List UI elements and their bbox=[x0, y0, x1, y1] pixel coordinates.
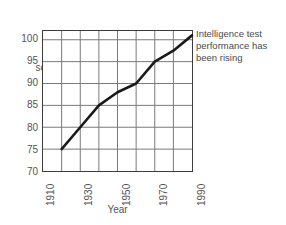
x-axis-tick-label: 1950 bbox=[122, 184, 132, 206]
y-axis-tick-label: 100 bbox=[0, 34, 38, 44]
y-axis-tick-label: 85 bbox=[0, 100, 38, 110]
y-axis-tick-label: 70 bbox=[0, 167, 38, 177]
plot-area bbox=[42, 30, 193, 172]
series-line-iq-score bbox=[62, 35, 192, 149]
y-axis-tick-label: 90 bbox=[0, 78, 38, 88]
x-axis-tick-label: 1930 bbox=[84, 184, 94, 206]
annotation-line-1: Intelligence test bbox=[196, 28, 286, 40]
y-axis-tick-label: 80 bbox=[0, 123, 38, 133]
x-axis-tick-label: 1990 bbox=[197, 184, 207, 206]
chart-annotation: Intelligence test performance has been r… bbox=[196, 28, 286, 64]
y-axis-tick-label: 75 bbox=[0, 145, 38, 155]
x-axis-title: Year bbox=[42, 204, 193, 215]
y-axis-tick-labels: 707580859095100 bbox=[0, 30, 38, 172]
annotation-line-2: performance has bbox=[196, 40, 286, 52]
x-axis-tick-label: 1910 bbox=[46, 184, 56, 206]
data-series-line bbox=[43, 31, 192, 171]
iq-line-chart: IQ score 707580859095100 191019301950197… bbox=[0, 0, 286, 225]
x-axis-tick-labels: 19101930195019701990 bbox=[42, 174, 193, 208]
annotation-line-3: been rising bbox=[196, 52, 286, 64]
x-axis-tick-label: 1970 bbox=[159, 184, 169, 206]
y-axis-tick-label: 95 bbox=[0, 56, 38, 66]
